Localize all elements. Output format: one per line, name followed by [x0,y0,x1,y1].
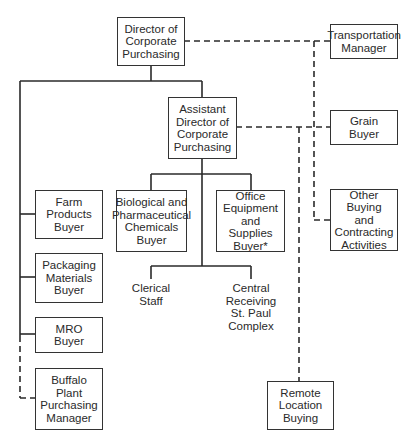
node-label: Director of Corporate Purchasing [122,23,180,61]
node-label: Assistant Director of Corporate Purchasi… [174,103,232,153]
remote-location-buying-box: Remote Location Buying [267,381,334,430]
director-of-corporate-purchasing-box: Director of Corporate Purchasing [117,17,185,66]
node-label: Office Equipment and Supplies Buyer* [219,190,282,253]
node-label: Biological and Pharmaceutical Chemicals … [112,196,191,246]
node-label: Transportation Manager [327,29,401,54]
mro-buyer-box: MRO Buyer [35,317,103,353]
node-label: Grain Buyer [349,115,379,140]
node-label: Packaging Materials Buyer [42,259,96,297]
assistant-director-box: Assistant Director of Corporate Purchasi… [168,97,237,159]
transportation-manager-box: Transportation Manager [330,24,398,59]
biological-pharmaceutical-buyer-box: Biological and Pharmaceutical Chemicals … [116,190,187,252]
packaging-materials-buyer-box: Packaging Materials Buyer [35,253,103,303]
node-label: Central Receiving St. Paul Complex [226,282,277,332]
other-buying-contracting-box: Other Buying and Contracting Activities [330,189,398,251]
node-label: Other Buying and Contracting Activities [333,189,395,252]
buffalo-plant-manager-box: Buffalo Plant Purchasing Manager [35,368,103,430]
grain-buyer-box: Grain Buyer [330,110,398,145]
node-label: Clerical Staff [132,282,170,307]
central-receiving-label: Central Receiving St. Paul Complex [226,282,277,332]
node-label: Buffalo Plant Purchasing Manager [40,374,98,424]
clerical-staff-label: Clerical Staff [132,282,170,307]
office-equipment-buyer-box: Office Equipment and Supplies Buyer* [216,190,285,252]
node-label: Farm Products Buyer [46,196,91,234]
node-label: Remote Location Buying [279,387,322,425]
node-label: MRO Buyer [54,323,84,348]
farm-products-buyer-box: Farm Products Buyer [35,190,103,239]
